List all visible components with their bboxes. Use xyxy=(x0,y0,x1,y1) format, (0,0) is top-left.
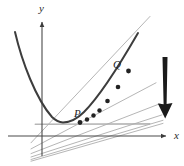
calculus-secant-line-figure: y x P Q xyxy=(0,0,184,166)
x-axis-label: x xyxy=(174,130,179,141)
secant-line-group xyxy=(31,16,163,161)
secant-line-6 xyxy=(31,123,163,161)
figure-canvas xyxy=(0,0,184,166)
curve-point-group xyxy=(78,69,131,125)
point-P-marker xyxy=(78,120,83,125)
y-axis-label: y xyxy=(39,3,44,14)
point-marker-1 xyxy=(85,117,89,121)
point-label-p: P xyxy=(74,108,81,119)
point-label-q: Q xyxy=(113,59,121,70)
point-marker-5 xyxy=(116,85,121,90)
point-marker-2 xyxy=(91,113,95,117)
point-marker-4 xyxy=(105,99,110,104)
secant-line-3 xyxy=(31,104,160,154)
point-Q-marker xyxy=(126,69,131,74)
point-marker-3 xyxy=(97,108,101,112)
arrow-down-icon xyxy=(158,57,173,119)
secant-line-5 xyxy=(31,120,163,159)
